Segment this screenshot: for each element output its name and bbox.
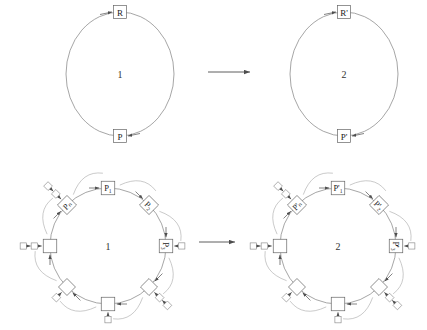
satellite-box bbox=[179, 243, 185, 249]
satellite-arrow bbox=[289, 292, 291, 294]
satellite-arrow bbox=[154, 292, 156, 294]
ring-node-p7-box bbox=[43, 239, 57, 253]
node-arc bbox=[290, 301, 326, 311]
panel-center-label: 2 bbox=[336, 241, 341, 252]
node-arc bbox=[60, 301, 96, 311]
ring-node-p3-label: P'₃ bbox=[391, 241, 401, 250]
satellite-box bbox=[31, 243, 37, 249]
panel-center-label: 1 bbox=[118, 69, 123, 80]
reactant-node-label: R bbox=[117, 8, 123, 18]
product-node-label: P bbox=[117, 132, 122, 142]
satellite-box bbox=[250, 243, 256, 249]
satellite-arrow bbox=[384, 292, 386, 294]
panel-top-left: 1RP bbox=[66, 6, 174, 143]
transform-arrows bbox=[199, 72, 250, 242]
satellite-box bbox=[261, 243, 267, 249]
node-arc bbox=[273, 198, 283, 234]
ring-node-p5-box bbox=[101, 297, 115, 311]
satellite-arrow bbox=[59, 292, 61, 294]
satellite-arrow bbox=[289, 197, 291, 199]
panel-center-label: 2 bbox=[342, 69, 347, 80]
node-arc bbox=[393, 258, 403, 294]
satellite-arrow bbox=[51, 189, 53, 191]
panel-bottom-left: 1P₁P₂P₃Pₙ bbox=[20, 173, 185, 323]
ring-node-p3-label: P₃ bbox=[161, 242, 171, 250]
satellite-arrow bbox=[392, 300, 394, 302]
satellite-box bbox=[20, 243, 26, 249]
node-arc bbox=[43, 198, 53, 234]
satellite-arrow bbox=[59, 197, 61, 199]
reactant-node-label: R' bbox=[340, 8, 348, 18]
product-node-label: P' bbox=[341, 132, 348, 142]
node-arc bbox=[163, 258, 173, 294]
ring-node-p1-label: P₁ bbox=[104, 183, 112, 193]
ring-node-p7-box bbox=[273, 239, 287, 253]
satellite-box bbox=[105, 317, 111, 323]
panel-top-right: 2R'P' bbox=[290, 6, 398, 143]
panel-center-label: 1 bbox=[106, 241, 111, 252]
satellite-box bbox=[409, 243, 415, 249]
satellite-box bbox=[335, 317, 341, 323]
ring-node-p5-box bbox=[331, 297, 345, 311]
node-arc bbox=[120, 181, 156, 191]
satellite-arrow bbox=[162, 300, 164, 302]
satellite-arrow bbox=[281, 189, 283, 191]
panel-bottom-right: 2P'₁P'₂P'₃P'ₙ bbox=[250, 173, 415, 323]
figure-canvas: 1RP 2R'P' 1P₁P₂P₃Pₙ 2P'₁P'₂P'₃P'ₙ bbox=[0, 0, 427, 330]
node-arc bbox=[350, 181, 386, 191]
ring-node-p1-label: P'₁ bbox=[333, 183, 342, 193]
